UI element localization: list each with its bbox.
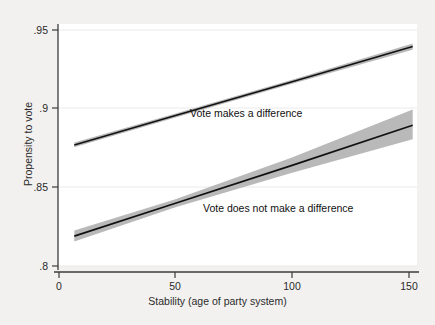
x-tick-label-1: 50 <box>155 280 195 292</box>
y-tick-label-3: .8 <box>12 260 48 272</box>
x-axis-ticks <box>59 272 409 278</box>
y-axis-ticks <box>52 30 58 266</box>
y-axis-title: Propensity to vote <box>22 102 34 186</box>
x-tick-label-2: 100 <box>272 280 312 292</box>
series-annotation-vote-makes-a-difference: Vote makes a difference <box>190 107 302 119</box>
series-annotation-vote-does-not-make-a-difference: Vote does not make a difference <box>203 202 353 214</box>
chart-canvas <box>0 0 435 325</box>
x-tick-label-0: 0 <box>39 280 79 292</box>
chart-figure: .95 .9 .85 .8 0 50 100 150 Propensity to… <box>0 0 435 325</box>
y-tick-label-0: .95 <box>12 24 48 36</box>
x-axis-title: Stability (age of party system) <box>0 295 435 307</box>
x-tick-label-3: 150 <box>389 280 429 292</box>
